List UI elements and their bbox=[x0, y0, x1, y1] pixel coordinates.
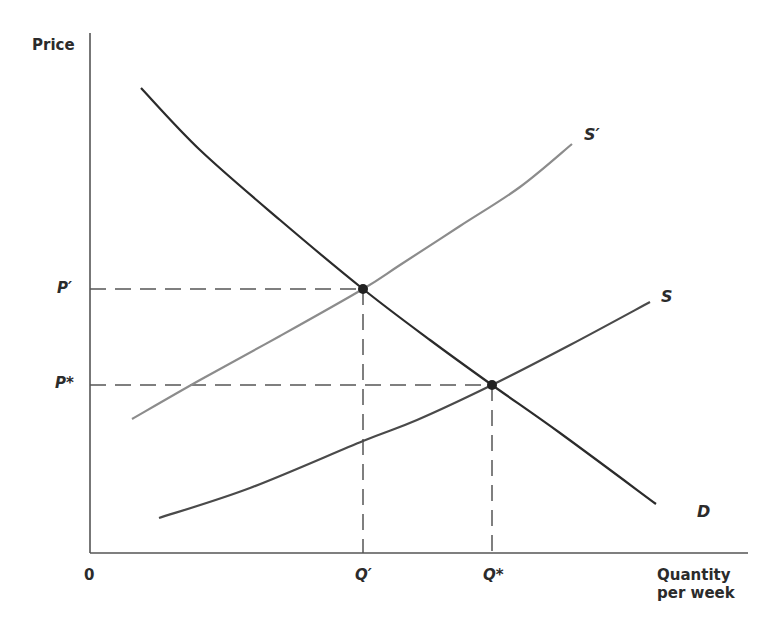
demand-curve-d bbox=[141, 88, 656, 504]
chart-canvas bbox=[0, 0, 778, 640]
p-prime-label: P′ bbox=[57, 281, 72, 296]
p-star-label: P* bbox=[55, 376, 74, 391]
curve-label-s: S bbox=[661, 289, 673, 305]
supply-curve-s bbox=[159, 302, 650, 518]
q-prime-label: Q′ bbox=[355, 568, 372, 583]
q-star-label: Q* bbox=[483, 568, 504, 583]
equilibrium-point-original bbox=[487, 380, 497, 390]
x-axis-label-line2: per week bbox=[657, 586, 735, 601]
curve-label-s-prime: S′ bbox=[584, 127, 600, 143]
y-axis-label: Price bbox=[32, 38, 75, 53]
origin-label: 0 bbox=[84, 568, 94, 583]
curve-label-d: D bbox=[697, 504, 710, 520]
x-axis-label-line1: Quantity bbox=[657, 568, 731, 583]
equilibrium-point-new bbox=[358, 284, 368, 294]
